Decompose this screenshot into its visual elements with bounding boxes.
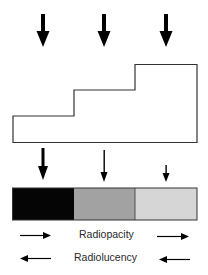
incident-arrow-2 (98, 14, 111, 47)
radiopacity-label: Radiopacity (79, 228, 134, 240)
radiolucency-arrow-right (159, 256, 190, 263)
transmitted-arrow-weak (163, 165, 170, 182)
step-wedge-outline (13, 65, 197, 143)
radiopacity-arrow-right (157, 233, 189, 240)
film-segment-dark (13, 188, 75, 220)
film-segment-light (135, 188, 197, 220)
film-density-bar (13, 188, 198, 220)
transmitted-arrow-medium (101, 150, 108, 182)
incident-arrow-3 (160, 14, 173, 47)
transmitted-arrow-strong (38, 148, 48, 180)
radiopacity-arrow-left (20, 232, 51, 239)
film-segment-medium (74, 188, 135, 220)
radiolucency-label: Radiolucency (74, 251, 137, 263)
incident-arrow-1 (37, 14, 50, 47)
radiolucency-arrow-left (20, 255, 51, 262)
